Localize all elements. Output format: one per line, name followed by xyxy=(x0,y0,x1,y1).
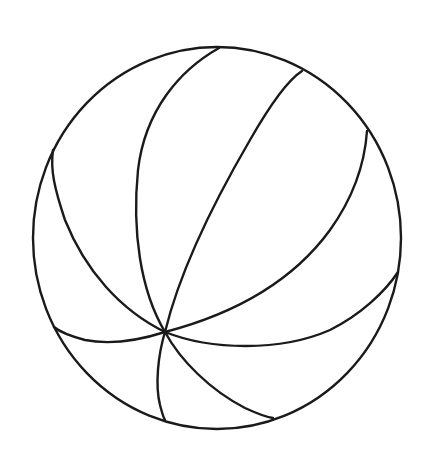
seam-left-upper xyxy=(52,150,165,332)
beach-ball-icon xyxy=(0,0,427,455)
seam-left-lower xyxy=(54,327,165,342)
seam-right-lower xyxy=(165,272,398,346)
beach-ball-drawing xyxy=(0,0,427,455)
ball-outline xyxy=(33,47,401,429)
seam-right-upper xyxy=(165,131,367,332)
seam-bottom-left xyxy=(158,332,165,420)
ball-seams xyxy=(52,48,398,420)
seam-top-right xyxy=(165,71,302,332)
